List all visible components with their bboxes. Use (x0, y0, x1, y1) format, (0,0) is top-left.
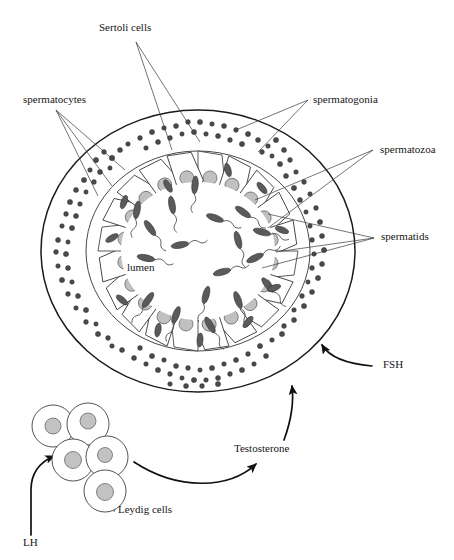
lumen-space (121, 182, 275, 320)
label-sertoli-cells: Sertoli cells (99, 21, 151, 33)
label-lumen: lumen (127, 261, 155, 273)
label-spermatids: spermatids (381, 230, 429, 242)
label-spermatogonia: spermatogonia (313, 93, 378, 105)
label-leydig-cells: Leydig cells (118, 503, 172, 515)
label-testosterone: Testosterone (234, 442, 290, 454)
leydig-cell-cluster (32, 403, 128, 512)
label-fsh: FSH (383, 358, 403, 370)
label-spermatocytes: spermatocytes (23, 93, 86, 105)
seminiferous-tubule-diagram: Sertoli cells spermatocytes spermatogoni… (0, 0, 454, 560)
testosterone-arrow-from-leydig (134, 462, 256, 483)
label-lh: LH (23, 536, 38, 548)
figure-canvas: Sertoli cells spermatocytes spermatogoni… (0, 0, 454, 560)
lh-arrow (31, 456, 54, 535)
fsh-arrow (322, 345, 372, 366)
label-spermatozoa: spermatozoa (380, 143, 436, 155)
testosterone-arrow-to-tubule (284, 386, 293, 440)
